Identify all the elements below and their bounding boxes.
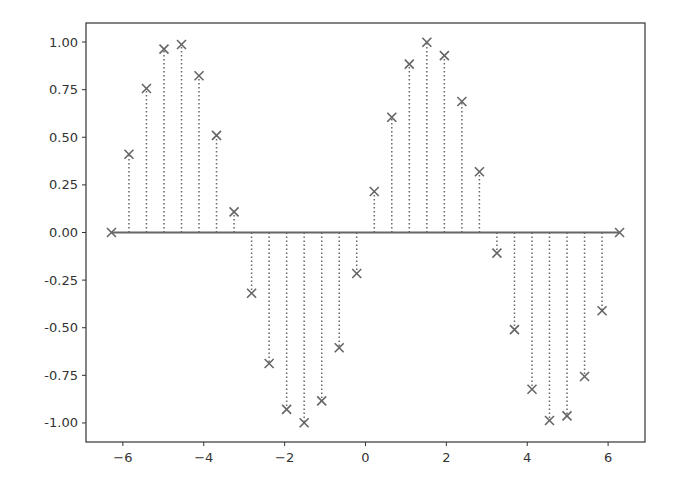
x-marker-icon bbox=[265, 359, 274, 368]
stem-chart: −6−4−20246 1.000.750.500.250.00-0.25-0.5… bbox=[0, 0, 680, 496]
y-tick-label: -0.75 bbox=[44, 368, 78, 383]
y-tick-label: -0.50 bbox=[44, 320, 78, 335]
x-tick-label: −4 bbox=[194, 450, 213, 465]
x-marker-icon bbox=[212, 131, 221, 140]
x-marker-icon bbox=[457, 97, 466, 106]
x-axis-ticks: −6−4−20246 bbox=[113, 442, 612, 465]
x-marker-icon bbox=[195, 71, 204, 80]
x-marker-icon bbox=[527, 385, 536, 394]
x-marker-icon bbox=[440, 51, 449, 60]
y-axis-ticks: 1.000.750.500.250.00-0.25-0.50-0.75-1.00 bbox=[44, 35, 86, 431]
y-tick-label: 0.75 bbox=[49, 82, 78, 97]
y-tick-label: -1.00 bbox=[44, 415, 78, 430]
x-tick-label: −6 bbox=[113, 450, 132, 465]
y-tick-label: 0.25 bbox=[49, 177, 78, 192]
x-marker-icon bbox=[282, 405, 291, 414]
x-tick-label: 2 bbox=[442, 450, 450, 465]
x-marker-icon bbox=[475, 167, 484, 176]
x-marker-icon bbox=[510, 325, 519, 334]
x-marker-icon bbox=[247, 289, 256, 298]
x-marker-icon bbox=[352, 269, 361, 278]
x-marker-icon bbox=[422, 38, 431, 47]
x-tick-label: 0 bbox=[361, 450, 369, 465]
y-tick-label: -0.25 bbox=[44, 273, 78, 288]
x-marker-icon bbox=[598, 306, 607, 315]
x-tick-label: −2 bbox=[275, 450, 294, 465]
x-tick-label: 4 bbox=[523, 450, 531, 465]
y-tick-label: 0.00 bbox=[49, 225, 78, 240]
x-marker-icon bbox=[124, 150, 133, 159]
y-tick-label: 1.00 bbox=[49, 35, 78, 50]
y-tick-label: 0.50 bbox=[49, 130, 78, 145]
x-marker-icon bbox=[300, 418, 309, 427]
x-tick-label: 6 bbox=[604, 450, 612, 465]
x-marker-icon bbox=[370, 187, 379, 196]
